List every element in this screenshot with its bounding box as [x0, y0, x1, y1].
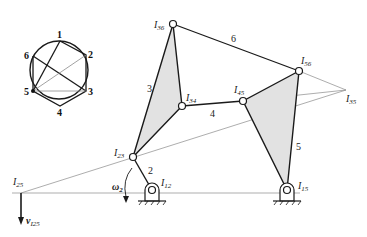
label-i35: I35: [345, 93, 357, 106]
link-6: [173, 24, 299, 71]
link-label-5: 5: [296, 141, 301, 152]
label-i15: I15: [297, 180, 309, 193]
omega-arrow: [123, 168, 132, 203]
node-label-2: 2: [88, 49, 93, 60]
joint-i45: [240, 98, 247, 105]
joint-i15: [284, 187, 291, 194]
node-label-1: 1: [57, 29, 62, 40]
link-5: [243, 71, 299, 190]
link-label-4: 4: [210, 108, 215, 119]
label-i25: I25: [12, 176, 24, 189]
label-i45: I45: [233, 84, 245, 97]
node-label-6: 6: [24, 50, 29, 61]
node-label-4: 4: [57, 107, 62, 118]
label-i12: I12: [160, 177, 172, 190]
link-label-2: 2: [148, 165, 153, 176]
label-i36: I36: [153, 19, 165, 32]
link-3: [133, 24, 182, 157]
joint-i34: [179, 103, 186, 110]
joint-i12: [149, 187, 156, 194]
center-labels: I36 I56 I34 I45 I35 I23 I25 I12 I15 ω2 v…: [12, 19, 357, 228]
link-label-3: 3: [147, 83, 152, 94]
node-label-5: 5: [24, 86, 29, 97]
mechanism-diagram: 1 2 3 4 5 6: [0, 0, 367, 237]
label-omega2: ω2: [112, 181, 123, 194]
label-i23: I23: [113, 147, 125, 160]
label-i56: I56: [300, 55, 312, 68]
joint-i36: [170, 21, 177, 28]
joint-i23: [130, 154, 137, 161]
joint-i56: [296, 68, 303, 75]
node-label-3: 3: [88, 86, 93, 97]
instant-center-circle-graph: 1 2 3 4 5 6: [24, 29, 93, 118]
label-velocity: vI25: [26, 215, 40, 228]
link-label-6: 6: [231, 33, 236, 44]
label-i34: I34: [185, 92, 197, 105]
velocity-arrow: [18, 193, 24, 225]
